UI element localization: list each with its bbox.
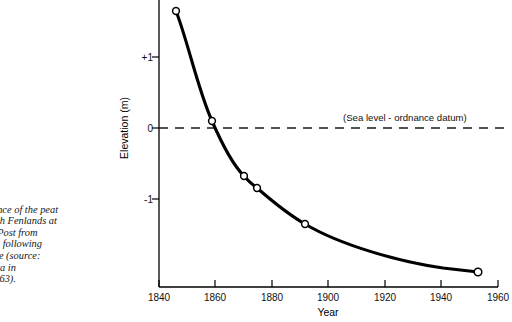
x-tick-label: 1860 [204,292,226,303]
subsidence-curve [176,11,478,272]
x-tick-label: 1840 [148,292,170,303]
data-point [209,118,216,125]
x-tick-label: 1880 [261,292,283,303]
y-axis-title: Elevation (m) [118,83,130,173]
subsidence-line-chart: 1840 1860 1880 1900 1920 1940 1960 +1 0 … [0,0,512,322]
data-point [241,173,248,180]
data-point [302,221,309,228]
x-axis-title: Year [317,306,338,318]
sea-level-annotation: (Sea level - ordnance datum) [341,112,469,123]
data-point [474,268,482,276]
y-tick-label: +1 [142,52,153,63]
y-tick-label: -1 [144,194,153,205]
x-tick-label: 1900 [317,292,339,303]
plot-canvas [0,0,512,322]
y-tick-label: 0 [147,123,153,134]
data-point [173,8,180,15]
data-point [254,185,261,192]
x-tick-label: 1940 [430,292,452,303]
x-axis-ticks [159,280,498,287]
x-tick-label: 1920 [374,292,396,303]
x-tick-label: 1960 [487,292,509,303]
